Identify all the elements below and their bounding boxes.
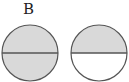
right-circle [71,25,127,81]
right-circle-bottom-half [71,53,127,81]
left-circle [2,25,58,81]
circles-diagram [0,0,129,82]
left-circle-top-half [2,25,58,53]
left-circle-bottom-half [2,53,58,81]
right-circle-top-half [71,25,127,53]
